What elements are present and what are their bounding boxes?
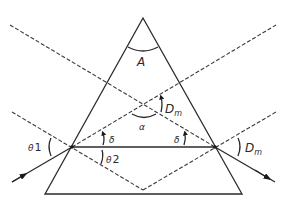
apex-angle-arc	[128, 47, 158, 51]
label-theta2: θ2	[106, 153, 120, 166]
label-theta1: θ1	[28, 141, 42, 154]
exit-point	[213, 145, 217, 149]
prism-diagram: A α Dm δ δ θ1 θ2 Dm	[0, 0, 288, 209]
label-delta-right: δ	[174, 135, 180, 145]
alpha-angle-arc	[132, 114, 156, 118]
emergent-ray-arrow-icon	[255, 170, 268, 178]
label-exit-deviation: Dm	[245, 141, 262, 157]
label-center-deviation: Dm	[165, 102, 182, 118]
theta1-arc	[49, 138, 51, 156]
theta2-arc	[101, 150, 103, 164]
exit-deviation-arc	[238, 138, 240, 156]
label-apex-angle: A	[136, 55, 145, 69]
incident-ray-arrow-icon	[12, 175, 24, 182]
label-alpha: α	[139, 122, 145, 132]
entry-point	[70, 145, 74, 149]
label-delta-left: δ	[109, 135, 115, 145]
center-deviation-arc	[161, 97, 162, 112]
dashed-extension-emergent	[72, 25, 276, 147]
delta-right-arc	[184, 133, 185, 145]
delta-left-arc	[103, 133, 104, 145]
prism-triangle	[45, 18, 242, 194]
